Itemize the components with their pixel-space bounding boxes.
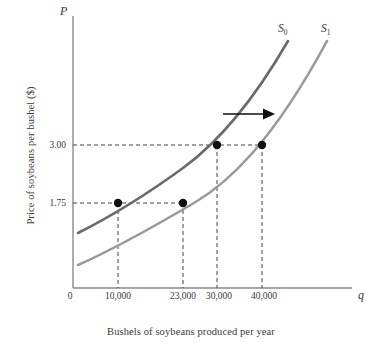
curve-label-s1: S1 (321, 22, 331, 37)
x-tick-label-10000: 10,000 (105, 291, 131, 301)
data-point-marker (258, 141, 266, 149)
x-axis-symbol: q (358, 288, 364, 303)
x-tick-label-0: 0 (68, 291, 73, 301)
y-tick-label-175: 1.75 (36, 198, 66, 208)
data-point-marker (179, 199, 187, 207)
x-tick-label-23000: 23,000 (170, 291, 196, 301)
curve-label-s0-subscript: 0 (284, 28, 288, 37)
data-point-marker (213, 141, 221, 149)
curve-label-s1-subscript: 1 (327, 28, 331, 37)
y-axis-title: Price of soybeans per bushel ($) (25, 51, 36, 261)
x-tick-label-40000: 40,000 (251, 291, 277, 301)
supply-shift-chart: P q S0 S1 3.00 1.75 0 10,000 23,000 30,0… (0, 0, 382, 352)
shift-arrow-icon (223, 109, 275, 120)
y-axis-symbol: P (60, 4, 67, 19)
data-point-marker (114, 199, 122, 207)
x-tick-label-30000: 30,000 (206, 291, 232, 301)
curve-label-s0: S0 (278, 22, 288, 37)
x-axis-title: Bushels of soybeans produced per year (0, 326, 382, 337)
y-tick-label-300: 3.00 (36, 140, 66, 150)
